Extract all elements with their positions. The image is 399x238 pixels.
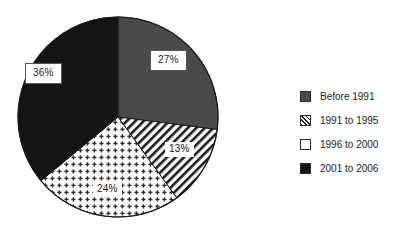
legend-item-1996-to-2000[interactable]: 1996 to 2000: [300, 139, 378, 150]
slice-label-before-1991: 27%: [150, 50, 187, 71]
hatched-swatch-icon: [300, 115, 311, 126]
chart-legend: Before 1991 1991 to 1995 1996 to 2000 20…: [300, 91, 378, 174]
white-swatch-icon: [300, 139, 311, 150]
pie-slice-before-1991[interactable]: [118, 17, 218, 130]
solid-gray-swatch-icon: [300, 91, 311, 102]
pie-chart-svg: [0, 0, 240, 238]
legend-label-2001-to-2006: 2001 to 2006: [320, 164, 378, 174]
legend-item-2001-to-2006[interactable]: 2001 to 2006: [300, 163, 378, 174]
legend-label-before-1991: Before 1991: [320, 92, 375, 102]
slice-label-1991-to-1995: 13%: [165, 142, 194, 157]
legend-label-1996-to-2000: 1996 to 2000: [320, 140, 378, 150]
slice-label-2001-to-2006: 36%: [25, 63, 62, 84]
pie-chart: 27% 36% 13% 24%: [0, 0, 240, 238]
legend-label-1991-to-1995: 1991 to 1995: [320, 116, 378, 126]
legend-item-before-1991[interactable]: Before 1991: [300, 91, 378, 102]
legend-item-1991-to-1995[interactable]: 1991 to 1995: [300, 115, 378, 126]
chart-canvas: 27% 36% 13% 24% Before 1991 1991 to 1995…: [0, 0, 399, 238]
slice-label-1996-to-2000: 24%: [93, 182, 122, 197]
solid-black-swatch-icon: [300, 163, 311, 174]
